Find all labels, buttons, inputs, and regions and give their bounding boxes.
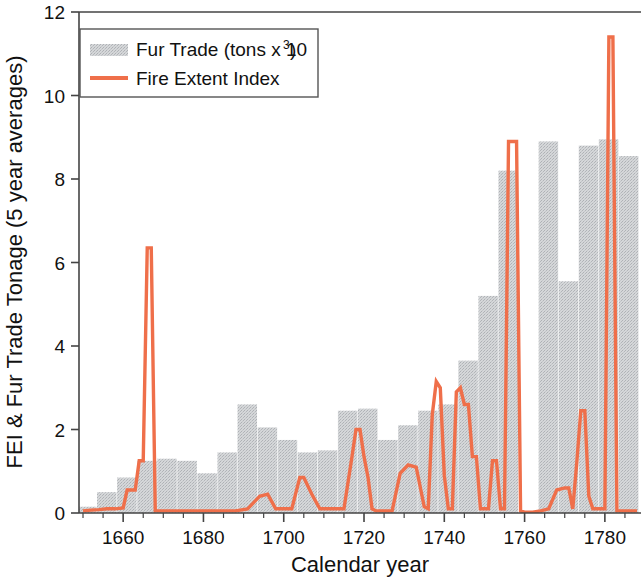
x-tick-label: 1660 [102,527,144,548]
x-axis-title: Calendar year [291,552,429,577]
x-tick-label: 1780 [584,527,626,548]
fei-fur-trade-chart: 024681012 1660168017001720174017601780 C… [0,0,643,580]
bar [217,452,236,513]
y-axis-title: FEI & Fur Trade Tonage (5 year averages) [2,56,27,469]
bar [318,450,337,513]
legend-label-fire-extent-index: Fire Extent Index [136,68,280,89]
bar [458,361,477,513]
bar [478,296,497,513]
x-tick-label: 1760 [503,527,545,548]
y-tick-label: 8 [54,169,65,190]
bar [619,156,638,513]
y-tick-label: 12 [44,2,65,23]
x-tick-label: 1720 [343,527,385,548]
legend-label-fur-trade: Fur Trade (tons x 10 [136,39,307,60]
y-tick-label: 6 [54,253,65,274]
chart-legend: Fur Trade (tons x 10 3 ) Fire Extent Ind… [80,29,318,97]
chart-figure: 024681012 1660168017001720174017601780 C… [0,0,643,580]
bar [177,461,196,513]
bar [157,459,176,513]
x-tick-label: 1740 [423,527,465,548]
bar [338,411,357,513]
y-tick-label: 2 [54,420,65,441]
legend-label-fur-trade-tail: ) [290,39,296,60]
bar [358,409,377,513]
y-tick-label: 0 [54,503,65,524]
x-tick-label: 1700 [263,527,305,548]
bar [197,473,216,513]
bar [238,404,257,513]
legend-label-fur-trade-exponent: 3 [283,38,290,52]
y-tick-label: 10 [44,86,65,107]
x-tick-label: 1680 [182,527,224,548]
bar [258,427,277,513]
legend-swatch-fur-trade [90,44,128,56]
bar [539,141,558,513]
y-tick-label: 4 [54,336,65,357]
bar [398,425,417,513]
